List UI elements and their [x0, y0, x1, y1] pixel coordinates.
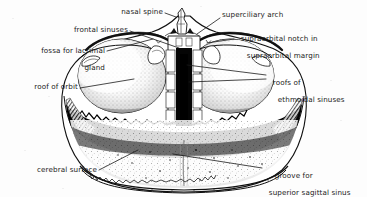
- label-fossa-for-lacrimal-gland: fossa for lacrimal gland: [0, 38, 105, 72]
- label-line-2: gland: [84, 63, 105, 72]
- label-line-2: ethmoidal sinuses: [278, 96, 345, 105]
- label-nasal-spine: nasal spine: [0, 8, 163, 17]
- label-superciliary-arch: superciliary arch: [222, 11, 283, 20]
- label-cerebral-surface: cerebral surface: [0, 166, 97, 175]
- label-line-1: groove for: [275, 172, 313, 181]
- label-line-2: supraorbital margin: [247, 52, 320, 61]
- label-line-2: superior sagittal sinus: [269, 188, 351, 197]
- label-roofs-of-ethmoidal-sinuses: roofs of ethmoidal sinuses: [268, 70, 345, 104]
- label-frontal-sinuses: frontal sinuses: [0, 26, 128, 35]
- label-line-1: supraorbital notch in: [241, 34, 318, 43]
- label-line-1: roofs of: [273, 78, 301, 87]
- label-supraorbital-notch: supraorbital notch in supraorbital margi…: [236, 26, 320, 60]
- leader-nasal-spine: [165, 13, 176, 17]
- label-groove-superior-sagittal-sinus: groove for superior sagittal sinus: [264, 163, 351, 197]
- label-line-1: fossa for lacrimal: [41, 46, 105, 55]
- label-roof-of-orbit: roof of orbit: [0, 83, 78, 92]
